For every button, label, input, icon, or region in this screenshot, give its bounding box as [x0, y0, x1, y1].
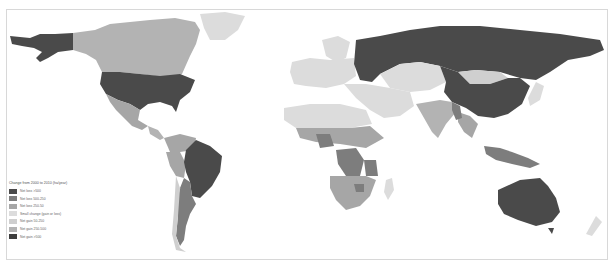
legend-title: Change from 2000 to 2010 (ha/year) [9, 181, 79, 185]
legend-label: Net loss 250-50 [20, 204, 44, 208]
region-indonesia[interactable] [484, 146, 540, 168]
legend-swatch [9, 219, 17, 224]
legend-swatch [9, 227, 17, 232]
legend-item: Small change (gain or loss) [9, 210, 79, 218]
region-alaska[interactable] [10, 33, 73, 62]
legend-label: Net gain 250-500 [20, 227, 46, 231]
legend-label: Net loss >500 [20, 189, 41, 193]
region-japan[interactable] [528, 82, 544, 106]
legend-swatch [9, 211, 17, 216]
region-australia[interactable] [498, 178, 560, 226]
legend-item: Net loss >500 [9, 187, 79, 195]
legend-item: Net gain 250-500 [9, 225, 79, 233]
region-madagascar[interactable] [384, 178, 394, 200]
legend-item: Net loss 500-250 [9, 195, 79, 203]
region-greenland[interactable] [200, 12, 245, 40]
legend-swatch [9, 189, 17, 194]
world-map [0, 0, 611, 263]
region-canada[interactable] [73, 18, 200, 78]
region-europe[interactable] [290, 58, 356, 88]
region-peru-ecuador[interactable] [166, 152, 186, 178]
legend-swatch [9, 196, 17, 201]
legend-swatch [9, 234, 17, 239]
legend-label: Net gain 50-250 [20, 219, 44, 223]
region-dr-congo[interactable] [336, 148, 364, 176]
legend-swatch [9, 204, 17, 209]
map-legend: Change from 2000 to 2010 (ha/year) Net l… [9, 181, 79, 240]
legend-label: Net loss 500-250 [20, 197, 46, 201]
region-scandinavia[interactable] [322, 36, 350, 62]
region-india[interactable] [416, 100, 456, 138]
region-central-america[interactable] [148, 126, 164, 140]
legend-item: Net gain 50-250 [9, 218, 79, 226]
region-north-africa[interactable] [284, 104, 372, 128]
region-tanzania[interactable] [364, 160, 378, 176]
legend-item: Net loss 250-50 [9, 202, 79, 210]
legend-label: Net gain >500 [20, 235, 41, 239]
region-sahel[interactable] [296, 126, 384, 148]
region-new-zealand[interactable] [586, 216, 602, 236]
legend-item: Net gain >500 [9, 233, 79, 241]
legend-label: Small change (gain or loss) [20, 212, 61, 216]
region-tasmania[interactable] [548, 228, 554, 234]
region-southern-africa[interactable] [330, 176, 376, 210]
